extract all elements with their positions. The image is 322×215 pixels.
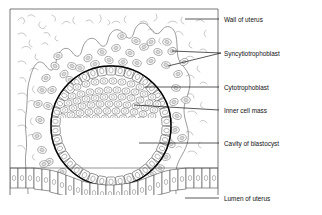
label-wall-of-uterus: Wall of uterus: [224, 16, 263, 23]
label-inner-cell-mass: Inner cell mass: [224, 107, 267, 114]
diagram-canvas: Wall of uterus Syncytiotrophoblast Cytot…: [0, 0, 322, 215]
uterus-blastocyst-diagram: Wall of uterus Syncytiotrophoblast Cytot…: [0, 0, 322, 215]
syncytiotrophoblast-cell: [53, 52, 63, 61]
leader-syncytiotrophoblast-b: [172, 51, 221, 53]
label-cavity-of-blastocyst: Cavity of blastocyst: [224, 140, 279, 148]
cytotrophoblast-cell: [107, 66, 115, 76]
label-cytotrophoblast: Cytotrophoblast: [224, 84, 269, 92]
label-lumen-of-uterus: Lumen of uterus: [224, 195, 270, 202]
leader-syncytiotrophoblast-a: [168, 53, 221, 66]
label-syncytiotrophoblast: Syncytiotrophoblast: [224, 50, 280, 58]
